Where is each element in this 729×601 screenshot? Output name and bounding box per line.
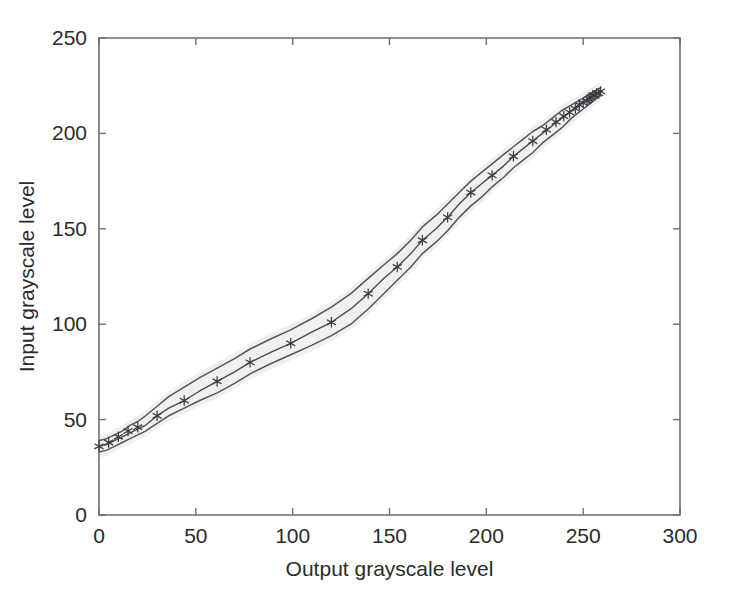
y-tick-label: 100 bbox=[52, 312, 87, 335]
chart-plot-area: 050100150200250300050100150200250Output … bbox=[0, 0, 729, 601]
y-tick-label: 200 bbox=[52, 121, 87, 144]
y-tick-label: 250 bbox=[52, 26, 87, 49]
y-tick-label: 0 bbox=[75, 503, 87, 526]
x-tick-label: 250 bbox=[566, 524, 601, 547]
x-tick-label: 300 bbox=[662, 524, 697, 547]
y-tick-label: 50 bbox=[64, 408, 87, 431]
x-tick-label: 50 bbox=[184, 524, 207, 547]
x-tick-label: 150 bbox=[372, 524, 407, 547]
x-axis-title: Output grayscale level bbox=[286, 557, 494, 580]
x-tick-label: 200 bbox=[469, 524, 504, 547]
chart-figure: 050100150200250300050100150200250Output … bbox=[0, 0, 729, 601]
x-tick-label: 100 bbox=[275, 524, 310, 547]
x-tick-label: 0 bbox=[93, 524, 105, 547]
y-tick-label: 150 bbox=[52, 217, 87, 240]
y-axis-title: Input grayscale level bbox=[15, 181, 38, 372]
